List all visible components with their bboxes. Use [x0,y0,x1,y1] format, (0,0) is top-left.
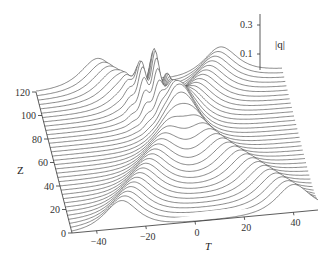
t-tick-label: −40 [91,236,107,247]
q-tick-0-3: 0.3 [240,19,253,30]
t-axis-label: T [205,240,212,252]
t-tick-label: −20 [140,231,156,242]
t-tick-label: 0 [195,227,200,238]
z-tick-label: 100 [21,110,36,121]
z-tick-label: 20 [50,204,60,215]
z-tick-label: 0 [61,228,66,239]
q-tick-0-1: 0.1 [240,48,253,59]
t-tick-label: 40 [290,217,300,228]
z-axis-label: Z [17,164,24,176]
t-tick-label: 20 [241,222,251,233]
waterfall-plot: 020406080100120 −40−2002040 0.3 0.1 |q| … [0,0,335,263]
z-tick-label: 40 [44,181,54,192]
z-tick-label: 120 [15,87,30,98]
q-axis-label: |q| [275,38,285,50]
surface-curves [36,47,318,235]
z-tick-label: 80 [32,134,42,145]
z-tick-label: 60 [38,157,48,168]
